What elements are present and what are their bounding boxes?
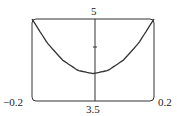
function-curve (32, 19, 154, 74)
y-bottom-label: 3.5 (86, 104, 100, 115)
x-right-label: 0.2 (158, 97, 172, 108)
plot-frame (32, 19, 154, 101)
y-top-label: 5 (91, 6, 97, 17)
plot-area (0, 0, 177, 116)
x-left-label: −0.2 (3, 97, 23, 108)
